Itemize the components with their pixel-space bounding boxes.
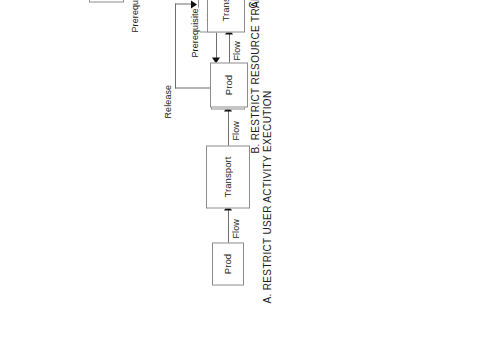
- node-prod-b[interactable]: Prod: [210, 62, 248, 107]
- edge-flow1-a-line: [228, 208, 229, 242]
- edge-flow1-b-label: Flow: [232, 40, 242, 61]
- panel-b-title: B. RESTRICT RESOURCE TRANSPORTATION: [250, 0, 261, 153]
- node-transport-a-label: Transport: [222, 156, 234, 197]
- node-prod-a[interactable]: Prod: [212, 242, 244, 285]
- node-prod-b-label: Prod: [223, 74, 235, 94]
- edge-flow1-b-line: [229, 32, 230, 62]
- edge-flow1-a-label: Flow: [231, 218, 241, 239]
- node-prod-a-label: Prod: [222, 253, 234, 273]
- rotated-diagram-layer: A. RESTRICT USER ACTIVITY EXECUTION Prod…: [0, 0, 490, 343]
- panel-c-title: C. RESTRICT RESOURCE PRODUCTION: [248, 0, 259, 8]
- figure-canvas: A. RESTRICT USER ACTIVITY EXECUTION Prod…: [0, 0, 490, 343]
- panel-b: B. RESTRICT RESOURCE TRANSPORTATION Prod…: [0, 0, 343, 157]
- panel-a: A. RESTRICT USER ACTIVITY EXECUTION Prod…: [0, 149, 343, 309]
- panel-c: C. RESTRICT RESOURCE PRODUCTION Prod Flo…: [0, 0, 343, 13]
